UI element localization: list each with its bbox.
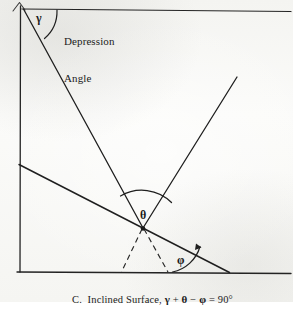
phi-angle-label: φ xyxy=(177,254,185,267)
caption-name: Inclined Surface, xyxy=(88,294,162,305)
top-horizontal-axis xyxy=(22,9,291,12)
caption-label: C. xyxy=(72,294,82,305)
gamma-angle-arc xyxy=(45,10,58,38)
dashed-construction-left xyxy=(122,229,143,272)
depression-angle-line-2: Angle xyxy=(64,72,115,84)
theta-angle-label: θ xyxy=(140,209,146,222)
depression-angle-line-1: Depression xyxy=(64,35,115,47)
inclined-surface-line xyxy=(19,165,230,273)
reflection-ray xyxy=(143,77,237,228)
figure-caption: C. Inclined Surface, γ + θ − φ = 90° xyxy=(61,281,233,309)
gamma-angle-label: γ xyxy=(36,12,42,25)
vertex-point xyxy=(141,226,146,231)
caption-value: 90° xyxy=(218,294,233,305)
left-vertical-axis xyxy=(20,6,21,272)
depression-angle-label: Depression Angle xyxy=(64,10,115,109)
bottom-horizontal-baseline xyxy=(17,272,291,274)
